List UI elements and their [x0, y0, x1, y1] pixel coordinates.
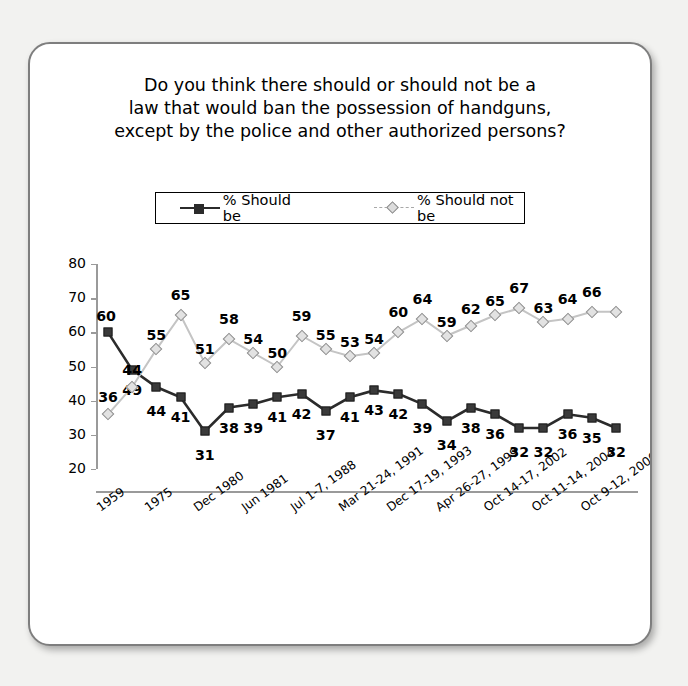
value-label-should-be: 44: [147, 403, 167, 419]
value-label-should-not-be: 64: [413, 291, 433, 307]
chart-card: Do you think there should or should not …: [28, 42, 652, 646]
data-point-should-be: [321, 406, 330, 415]
data-point-should-be: [563, 410, 572, 419]
value-label-should-not-be: 60: [388, 304, 408, 320]
value-label-should-not-be: 53: [340, 334, 360, 350]
data-point-should-be: [370, 386, 379, 395]
value-label-should-be: 60: [96, 308, 116, 324]
value-label-should-be: 38: [461, 420, 481, 436]
value-label-should-be: 35: [582, 430, 602, 446]
data-point-should-be: [273, 393, 282, 402]
data-point-should-be: [466, 403, 475, 412]
value-label-should-not-be: 65: [171, 287, 191, 303]
plot-area: 2030405060708019591975Dec 1980Jun 1981Ju…: [30, 44, 650, 644]
value-label-should-not-be: 64: [558, 291, 578, 307]
value-label-should-be: 31: [195, 447, 215, 463]
value-label-should-be: 42: [292, 406, 312, 422]
value-label-should-be: 32: [509, 444, 529, 460]
value-label-should-not-be: 62: [461, 301, 481, 317]
value-label-should-not-be: 59: [292, 308, 312, 324]
value-label-should-be: 41: [267, 409, 287, 425]
data-point-should-be: [104, 328, 113, 337]
value-label-should-not-be: 63: [534, 300, 554, 316]
value-label-should-not-be: 59: [437, 314, 457, 330]
data-point-should-be: [345, 393, 354, 402]
value-label-should-not-be: 66: [582, 284, 602, 300]
data-point-should-be: [200, 427, 209, 436]
value-label-should-be: 32: [606, 444, 626, 460]
value-label-should-be: 34: [437, 437, 457, 453]
value-label-should-not-be: 65: [485, 293, 505, 309]
value-label-should-be: 36: [485, 426, 505, 442]
value-label-should-not-be: 54: [243, 331, 263, 347]
data-point-should-be: [539, 424, 548, 433]
value-label-should-be: 37: [316, 427, 336, 443]
value-label-should-be: 38: [219, 420, 239, 436]
value-label-should-be: 36: [558, 426, 578, 442]
data-point-should-be: [176, 393, 185, 402]
value-label-should-not-be: 55: [316, 327, 336, 343]
value-label-should-be: 32: [534, 444, 554, 460]
value-label-should-be: 43: [364, 402, 384, 418]
value-label-should-not-be: 50: [267, 345, 287, 361]
value-label-should-not-be: 55: [147, 327, 167, 343]
value-label-should-not-be: 58: [219, 311, 239, 327]
value-label-should-not-be: 54: [364, 331, 384, 347]
data-point-should-be: [491, 410, 500, 419]
data-point-should-be: [297, 389, 306, 398]
value-label-should-not-be: 51: [195, 341, 215, 357]
data-point-should-be: [224, 403, 233, 412]
data-point-should-be: [249, 400, 258, 409]
value-label-should-be: 42: [388, 406, 408, 422]
value-label-should-be: 39: [413, 420, 433, 436]
value-label-should-not-be: 67: [509, 280, 529, 296]
data-point-should-be: [587, 413, 596, 422]
value-label-should-not-be: 36: [98, 389, 118, 405]
value-label-should-not-be: 44: [122, 362, 142, 378]
data-point-should-be: [418, 400, 427, 409]
value-label-should-be: 39: [243, 420, 263, 436]
data-point-should-be: [442, 417, 451, 426]
data-point-should-be: [612, 424, 621, 433]
data-point-should-be: [515, 424, 524, 433]
value-label-should-be: 41: [171, 409, 191, 425]
page-background: Do you think there should or should not …: [0, 0, 688, 686]
data-point-should-be: [152, 383, 161, 392]
value-label-should-be: 41: [340, 409, 360, 425]
data-point-should-be: [394, 389, 403, 398]
